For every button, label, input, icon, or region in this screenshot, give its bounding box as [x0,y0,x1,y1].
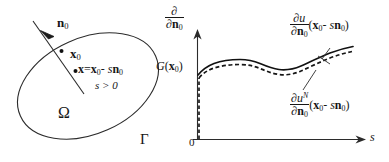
y-axis-numerator: ∂ [165,5,184,18]
numerical-derivative-fraction: ∂uN ∂n0 [290,92,309,120]
point-x0-marker [60,49,64,53]
numerical-derivative-argument: (x0- sn0) [309,99,349,113]
exact-derivative-argument: (x0- sn0) [309,19,349,33]
exact-derivative-denominator: ∂n0 [290,25,309,39]
exact-derivative-fraction: ∂u ∂n0 [290,12,309,40]
label-exact-normal-derivative: ∂u ∂n0 (x0- sn0) [290,12,349,40]
label-G-x0: G(x0) [156,60,183,74]
label-point-x0: x0 [70,47,81,62]
leader-line-dashed [303,70,316,90]
label-origin-zero: 0 [189,137,195,148]
numerical-derivative-curve [199,52,352,79]
label-normal-n0: n0 [57,16,69,31]
label-domain-omega: Ω [58,105,70,121]
numerical-derivative-denominator: ∂n0 [290,105,309,119]
exact-derivative-numerator: ∂u [290,12,309,25]
label-x-axis-s: s [370,131,375,143]
y-axis-fraction: ∂ ∂n0 [165,5,184,33]
label-y-axis-normal-derivative: ∂ ∂n0 [165,5,184,33]
solid-curve-group [198,47,353,76]
numerical-derivative-numerator: ∂uN [290,92,309,105]
label-s-positive-condition: s > 0 [95,80,118,91]
plot-axes-group [193,29,366,144]
exact-derivative-curve [198,47,353,76]
label-boundary-gamma: Γ [140,132,149,147]
label-numerical-normal-derivative: ∂uN ∂n0 (x0- sn0) [290,92,349,120]
label-parametric-equation: x=x0- sn0 [78,63,123,77]
y-axis-denominator: ∂n0 [165,18,184,32]
point-x-marker [74,69,78,73]
figure-root: n0 x0 x=x0- sn0 s > 0 Ω Γ ∂ ∂n0 G(x0) 0 … [0,0,389,162]
